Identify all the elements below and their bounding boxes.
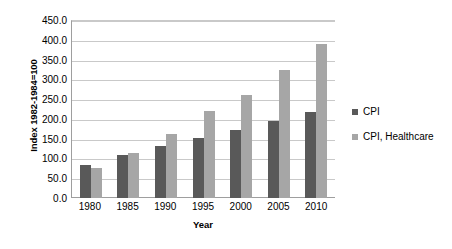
y-axis-tick-label: 450.0 [42,15,67,26]
x-axis-title: Year [71,219,335,230]
bar [204,111,215,198]
y-axis-tick-label: 250.0 [42,94,67,105]
x-axis-tick-label: 1995 [184,201,222,212]
bar [80,165,91,198]
y-axis-tick-label: 100.0 [42,153,67,164]
y-axis-tick-label: 350.0 [42,54,67,65]
bar-group [297,21,335,198]
bar [279,70,290,198]
legend-label: CPI [363,106,380,117]
legend-swatch-icon [352,109,358,115]
bar-chart: Index 1982-1984=100 0.050.0100.0150.0200… [0,0,452,249]
x-axis-tick-label: 1985 [109,201,147,212]
plot-area [71,20,335,198]
x-axis-tick-label: 2010 [297,201,335,212]
bar [241,95,252,198]
legend-item[interactable]: CPI [352,106,450,117]
legend-item[interactable]: CPI, Healthcare [352,131,450,142]
y-axis-tick-labels: 0.050.0100.0150.0200.0250.0300.0350.0400… [22,20,67,198]
y-axis-tick-label: 0.0 [53,193,67,204]
bars-layer [72,21,335,198]
bar [91,168,102,198]
bar-group [72,21,110,198]
bar-group [147,21,185,198]
x-axis-tick-label: 2000 [222,201,260,212]
bar-group [260,21,298,198]
legend: CPICPI, Healthcare [352,106,450,156]
y-axis-tick-label: 50.0 [48,173,67,184]
bar [193,138,204,198]
bar [230,130,241,198]
x-axis-tick-labels: 1980198519901995200020052010 [71,201,335,212]
x-axis-tick-label: 1990 [146,201,184,212]
bar [166,134,177,198]
bar [268,121,279,198]
bar-group [110,21,148,198]
y-axis-tick-label: 300.0 [42,74,67,85]
bar [128,153,139,198]
bar [117,155,128,198]
bar-group [222,21,260,198]
bar-group [185,21,223,198]
bar [155,146,166,198]
bar [316,44,327,198]
legend-label: CPI, Healthcare [363,131,434,142]
legend-swatch-icon [352,134,358,140]
x-axis-tick-label: 1980 [71,201,109,212]
y-axis-tick-label: 150.0 [42,133,67,144]
y-axis-tick-label: 400.0 [42,34,67,45]
x-axis-tick-label: 2005 [260,201,298,212]
bar [305,112,316,198]
y-axis-tick-label: 200.0 [42,113,67,124]
